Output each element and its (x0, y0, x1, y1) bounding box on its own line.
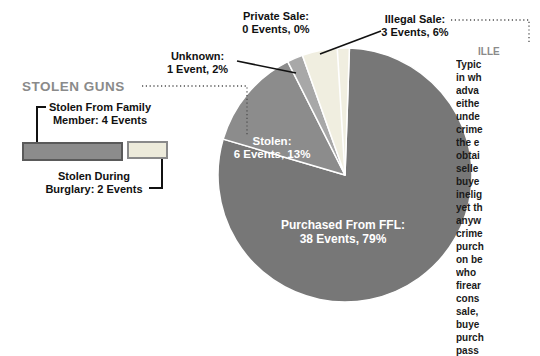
ffl-slice-label: Purchased From FFL: 38 Events, 79% (258, 219, 428, 246)
pie-slices (218, 48, 472, 302)
description-line: yet th (456, 201, 540, 214)
stolen-from-family-label: Stolen From Family Member: 4 Events (38, 101, 162, 126)
illegal-sale-line1: Illegal Sale: (370, 13, 460, 26)
stolen-from-family-bar (22, 142, 123, 161)
private-sale-callout: Private Sale: 0 Events, 0% (216, 10, 336, 35)
stolen-slice-label: Stolen: 6 Events, 13% (218, 135, 326, 161)
family-label-line1: Stolen From Family (38, 101, 162, 114)
illegal-sale-description-text: ILLE Typicin whadvaeitheundecrimethe eob… (456, 45, 540, 356)
description-line: in wh (456, 71, 540, 84)
stolen-during-burglary-label: Stolen During Burglary: 2 Events (32, 170, 156, 195)
description-line: crime (456, 123, 540, 136)
description-line: the e (456, 136, 540, 149)
unknown-line2: 1 Event, 2% (155, 63, 240, 76)
description-line: adva (456, 84, 540, 97)
stolen-slice-line2: 6 Events, 13% (218, 148, 326, 161)
illegal-sale-dotted-line (451, 20, 529, 43)
private-sale-line2: 0 Events, 0% (216, 23, 336, 36)
description-line: purch (456, 240, 540, 253)
description-line: cons (456, 292, 540, 305)
description-line: selle (456, 162, 540, 175)
description-line: firear (456, 279, 540, 292)
description-line: purch (456, 331, 540, 344)
illegal-sale-line2: 3 Events, 6% (370, 26, 460, 39)
burglary-label-line2: Burglary: 2 Events (32, 183, 156, 196)
description-line: who (456, 266, 540, 279)
description-line: unde (456, 110, 540, 123)
stolen-during-burglary-bar (127, 141, 168, 159)
unknown-callout: Unknown: 1 Event, 2% (155, 50, 240, 75)
description-line: anyw (456, 214, 540, 227)
stolen-guns-heading: STOLEN GUNS (22, 79, 125, 94)
ffl-slice-line2: 38 Events, 79% (258, 233, 428, 247)
unknown-line1: Unknown: (155, 50, 240, 63)
stolen-slice-line1: Stolen: (218, 135, 326, 148)
description-line: buye (456, 318, 540, 331)
family-label-line2: Member: 4 Events (38, 114, 162, 127)
illegal-sale-description-lines: Typicin whadvaeitheundecrimethe eobtaise… (456, 58, 540, 356)
description-line: crime (456, 227, 540, 240)
description-line: sale, (456, 305, 540, 318)
description-line: buye (456, 175, 540, 188)
description-line: obtai (456, 149, 540, 162)
description-line: on be (456, 253, 540, 266)
illegal-sale-description-heading: ILLE (478, 45, 540, 58)
illegal-sale-callout: Illegal Sale: 3 Events, 6% (370, 13, 460, 38)
description-line: Typic (456, 58, 540, 71)
description-line: eithe (456, 97, 540, 110)
burglary-label-line1: Stolen During (32, 170, 156, 183)
ffl-slice-line1: Purchased From FFL: (258, 219, 428, 233)
description-line: inelig (456, 188, 540, 201)
private-sale-line1: Private Sale: (216, 10, 336, 23)
description-line: pass (456, 344, 540, 356)
